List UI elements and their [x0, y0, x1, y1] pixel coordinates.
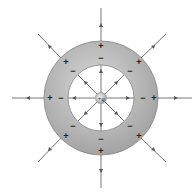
svg-text:+: +	[151, 93, 156, 103]
svg-text:−: −	[98, 53, 103, 63]
svg-text:−: −	[70, 121, 75, 131]
svg-text:+: +	[136, 57, 141, 67]
svg-text:−: −	[70, 66, 75, 76]
svg-text:−: −	[58, 93, 63, 103]
svg-text:+: +	[47, 93, 52, 103]
svg-text:+: +	[98, 146, 103, 156]
svg-text:+: +	[63, 57, 68, 67]
svg-text:−: −	[98, 134, 103, 144]
svg-text:+: +	[136, 131, 141, 141]
charge-label: +q	[97, 95, 105, 102]
svg-text:−: −	[140, 93, 145, 103]
svg-text:−: −	[127, 66, 132, 76]
svg-text:+: +	[63, 131, 68, 141]
svg-text:+: +	[98, 41, 103, 51]
svg-text:−: −	[127, 121, 132, 131]
shell-diagram: +q + + + + + + + + − − − − − − − −	[0, 0, 196, 194]
